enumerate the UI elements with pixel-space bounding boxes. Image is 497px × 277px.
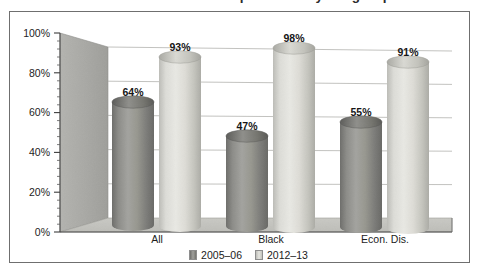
plot-back-wall [60, 33, 108, 232]
y-tick-label-40: 40% [8, 146, 50, 158]
legend-item-2005-06: 2005–06 [189, 249, 242, 261]
bar-econ-2005 [340, 116, 382, 233]
y-tick-label-20: 20% [8, 186, 50, 198]
bar-all-2005 [112, 96, 154, 231]
bar-econ-2012 [387, 56, 429, 234]
y-axis [54, 33, 60, 232]
data-label-black-2012: 98% [269, 32, 319, 44]
data-label-all-2012: 93% [155, 41, 205, 53]
bar-black-2005 [226, 130, 268, 232]
y-tick-label-60: 60% [8, 106, 50, 118]
bar-black-2012 [273, 42, 315, 233]
legend-swatch-2005-06 [189, 250, 197, 260]
legend-label-2005-06: 2005–06 [201, 249, 242, 261]
data-label-black-2005: 47% [222, 120, 272, 132]
y-tick-label-0: 0% [8, 226, 50, 238]
data-label-econ-2012: 91% [383, 46, 433, 58]
data-label-all-2005: 64% [108, 86, 158, 98]
y-tick-label-80: 80% [8, 67, 50, 79]
x-category-label-black: Black [236, 233, 306, 245]
data-label-econ-2005: 55% [336, 106, 386, 118]
chart-legend: 2005–06 2012–13 [0, 249, 497, 261]
bar-all-2012 [159, 51, 201, 232]
legend-label-2012-13: 2012–13 [267, 249, 308, 261]
y-tick-label-100: 100% [8, 27, 50, 39]
legend-item-2012-13: 2012–13 [255, 249, 308, 261]
x-category-label-econ: Econ. Dis. [350, 233, 420, 245]
x-category-label-all: All [122, 233, 192, 245]
legend-swatch-2012-13 [255, 250, 263, 260]
